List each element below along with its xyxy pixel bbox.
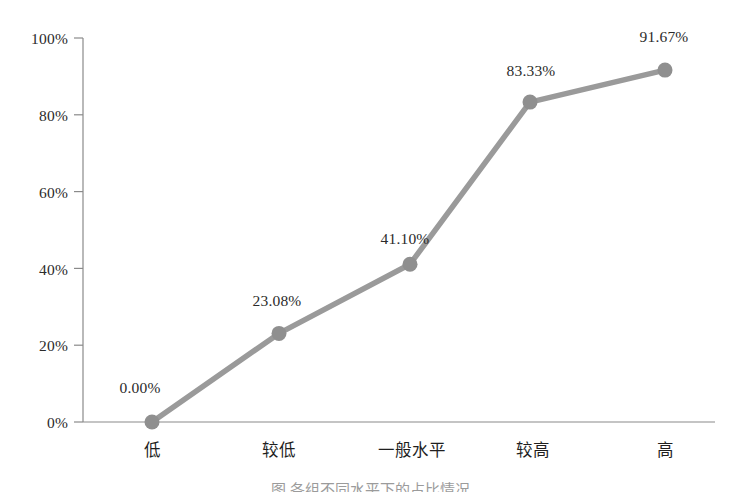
data-point-marker <box>272 326 287 341</box>
y-tick-label-40: 40% <box>0 261 68 279</box>
x-tick-label-average: 一般水平 <box>378 437 446 461</box>
y-tick-label-20: 20% <box>0 337 68 355</box>
x-tick-label-relatively-high: 较高 <box>516 437 550 461</box>
data-point-marker <box>403 257 418 272</box>
figure-caption: 图 各组不同水平下的占比情况 <box>0 478 741 492</box>
line-chart-figure: 100% 80% 60% 40% 20% 0% 低 较低 一般水平 较高 高 0… <box>0 0 741 492</box>
x-tick-label-relatively-low: 较低 <box>262 437 296 461</box>
y-tick-label-100: 100% <box>0 30 68 48</box>
data-label-high: 91.67% <box>640 28 689 46</box>
y-tick-label-0: 0% <box>0 414 68 432</box>
data-point-marker <box>523 95 538 110</box>
y-tick-label-80: 80% <box>0 107 68 125</box>
data-point-marker <box>658 63 673 78</box>
data-label-low: 0.00% <box>119 379 160 397</box>
chart-plot-area <box>0 0 741 492</box>
data-label-relatively-high: 83.33% <box>507 62 556 80</box>
y-axis-ticks <box>74 38 83 422</box>
x-tick-label-low: 低 <box>144 437 161 461</box>
data-label-relatively-low: 23.08% <box>253 292 302 310</box>
data-label-average: 41.10% <box>381 230 430 248</box>
y-tick-label-60: 60% <box>0 184 68 202</box>
x-tick-label-high: 高 <box>657 437 674 461</box>
data-point-marker <box>145 415 160 430</box>
